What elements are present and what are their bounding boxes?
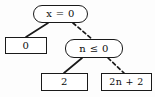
terminal-node-linear: 2n + 2 — [101, 73, 152, 91]
node-label-two: 2 — [61, 77, 68, 87]
node-label-linear: 2n + 2 — [109, 77, 144, 87]
terminal-node-zero: 0 — [5, 37, 47, 54]
node-label-zero: 0 — [23, 41, 30, 51]
terminal-node-two: 2 — [41, 73, 88, 91]
node-label-condition: n ≤ 0 — [79, 44, 109, 54]
edge-root-to-zero — [26, 23, 48, 37]
edge-cond-to-two — [64, 58, 82, 73]
decision-node-root: x = 0 — [33, 5, 88, 23]
node-label-root: x = 0 — [46, 9, 75, 19]
edge-root-to-cond — [73, 23, 92, 39]
edge-cond-to-linear — [108, 58, 124, 73]
decision-diagram: x = 0 0 n ≤ 0 2 2n + 2 — [0, 0, 155, 97]
decision-node-condition: n ≤ 0 — [65, 39, 123, 58]
